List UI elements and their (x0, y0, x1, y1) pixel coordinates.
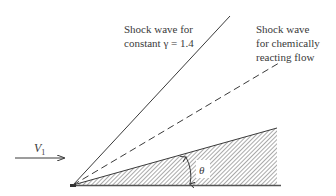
shock-reacting-label-line1: Shock wave (256, 23, 310, 35)
shock-constant-gamma-label-line2: constant γ = 1.4 (124, 37, 194, 49)
wedge-angle-label: θ (199, 164, 205, 176)
oblique-shock-diagram: Shock wave for constant γ = 1.4 Shock wa… (0, 0, 336, 196)
shock-reacting-label-line3: reacting flow (256, 51, 314, 63)
freestream-velocity-label: V1 (34, 141, 45, 157)
shock-reacting-label-line2: for chemically (256, 37, 320, 49)
shock-constant-gamma-label-line1: Shock wave for (124, 23, 193, 35)
